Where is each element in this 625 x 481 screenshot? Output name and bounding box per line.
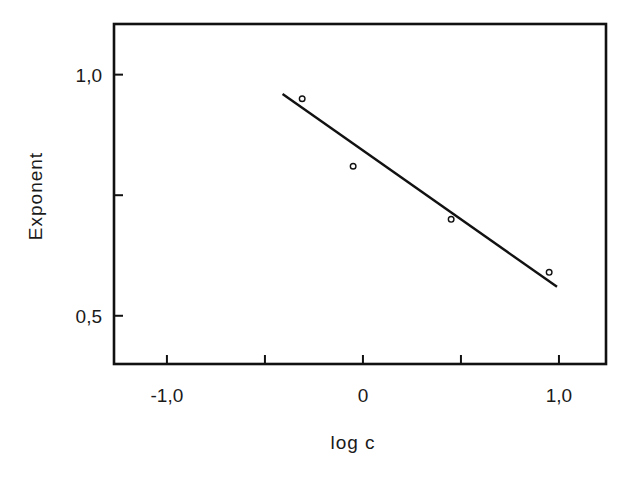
x-axis-label: log c [330, 432, 375, 453]
x-axis-ticks: -1,001,0 [151, 355, 573, 406]
x-tick-label: 0 [358, 385, 369, 406]
y-axis-ticks: 1,00,5 [76, 65, 123, 327]
plot-frame [114, 24, 606, 364]
data-point-marker [546, 270, 552, 276]
x-tick-label: -1,0 [151, 385, 184, 406]
y-axis-label: Exponent [25, 152, 46, 240]
y-tick-label: 1,0 [76, 65, 102, 86]
data-point-marker [448, 217, 454, 223]
fit-line [283, 94, 557, 287]
data-series [283, 94, 557, 287]
data-point-marker [299, 96, 305, 102]
data-point-marker [350, 163, 356, 169]
chart-canvas: -1,001,0 1,00,5 log c Exponent [0, 0, 625, 481]
x-tick-label: 1,0 [546, 385, 572, 406]
y-tick-label: 0,5 [76, 306, 102, 327]
plot-border [114, 24, 606, 364]
